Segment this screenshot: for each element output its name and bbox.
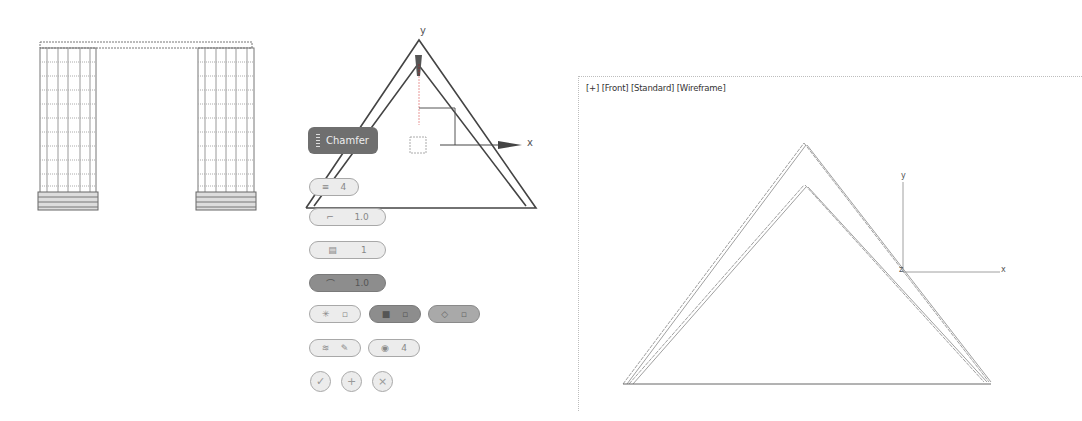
- tension-icon: ⌒: [326, 277, 335, 290]
- caddy-amount-spinner[interactable]: ⌐ 1.0: [309, 208, 386, 226]
- caddy-material-id-toggle[interactable]: ◇▫: [428, 305, 480, 323]
- apply-icon: +: [347, 375, 356, 388]
- ok-button[interactable]: ✓: [310, 371, 331, 392]
- gizmo-y-label: y: [420, 25, 426, 36]
- smooth-icon: ✳: [322, 309, 330, 319]
- cancel-icon: ×: [378, 375, 387, 388]
- gizmo-x-label: x: [527, 137, 533, 148]
- caddy-value[interactable]: 4: [341, 182, 347, 192]
- brush-icon: ✎: [341, 343, 349, 353]
- apply-continue-button[interactable]: +: [341, 371, 362, 392]
- smooth-value-icon: ▫: [342, 309, 348, 319]
- caddy-value: 4: [401, 343, 407, 353]
- ok-icon: ✓: [316, 375, 325, 388]
- amount-icon: ⌐: [326, 212, 334, 222]
- frame-structure-wireframe: [30, 30, 270, 220]
- caddy-value[interactable]: 1: [361, 245, 367, 255]
- world-axis-z-label: z: [899, 265, 903, 274]
- caddy-mitering-dropdown[interactable]: ◉ 4: [368, 339, 420, 357]
- inset-icon: ≋: [322, 343, 330, 353]
- material-id-value-icon: ▫: [461, 309, 467, 319]
- world-axis-y-label: y: [901, 171, 906, 180]
- drag-grip-icon[interactable]: [316, 134, 320, 148]
- material-id-icon: ◇: [441, 309, 448, 319]
- caddy-value[interactable]: 1.0: [355, 278, 369, 288]
- viewport-wireframe-geometry: [579, 77, 1082, 411]
- smooth-group-icon: ■: [382, 309, 391, 319]
- edit-poly-icon: ≡: [322, 182, 330, 192]
- caddy-smooth-group-toggle[interactable]: ■▫: [369, 305, 421, 323]
- mitering-icon: ◉: [381, 343, 389, 353]
- caddy-inset-toggle[interactable]: ≋✎: [309, 339, 361, 357]
- cancel-button[interactable]: ×: [372, 371, 393, 392]
- caddy-tension-spinner[interactable]: ⌒ 1.0: [309, 274, 386, 292]
- world-axis-x-label: x: [1001, 265, 1006, 274]
- front-viewport[interactable]: [+] [Front] [Standard] [Wireframe] y x z: [578, 76, 1082, 411]
- caddy-value[interactable]: 1.0: [354, 212, 368, 222]
- caddy-segments-spinner[interactable]: ▤ 1: [309, 241, 386, 259]
- caddy-smooth-toggle[interactable]: ✳▫: [309, 305, 361, 323]
- smooth-threshold-icon: ▫: [402, 309, 408, 319]
- transform-gizmo[interactable]: [410, 55, 522, 153]
- segments-icon: ▤: [328, 245, 337, 255]
- caddy-title-label: Chamfer: [326, 135, 369, 146]
- chamfer-caddy-title[interactable]: Chamfer: [308, 127, 378, 154]
- caddy-edit-type-spinner[interactable]: ≡ 4: [309, 178, 359, 196]
